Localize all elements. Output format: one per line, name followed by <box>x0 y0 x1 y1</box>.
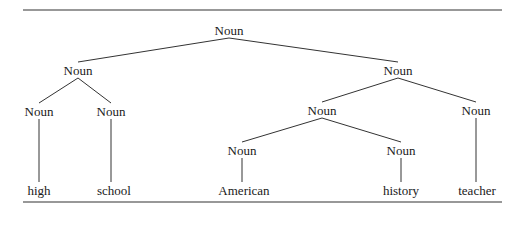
node-right: Noun <box>384 64 413 77</box>
tree-edge <box>78 38 229 62</box>
tree-edge <box>78 78 111 103</box>
tree-edge <box>39 78 78 103</box>
node-school: Noun <box>97 105 126 118</box>
node-teacher: Noun <box>462 104 491 117</box>
word-teacher: teacher <box>458 184 496 197</box>
node-american: Noun <box>228 144 257 157</box>
node-root: Noun <box>215 24 244 37</box>
word-american: American <box>218 184 269 197</box>
word-school: school <box>97 184 131 197</box>
tree-edge <box>229 38 398 62</box>
tree-edge <box>322 78 398 102</box>
word-high: high <box>27 184 50 197</box>
node-american-history: Noun <box>308 104 337 117</box>
word-history: history <box>383 184 419 197</box>
node-left: Noun <box>64 64 93 77</box>
tree-edge <box>398 78 476 102</box>
node-high: Noun <box>25 105 54 118</box>
node-history: Noun <box>387 144 416 157</box>
tree-edge <box>322 118 401 142</box>
tree-edge <box>242 118 322 142</box>
